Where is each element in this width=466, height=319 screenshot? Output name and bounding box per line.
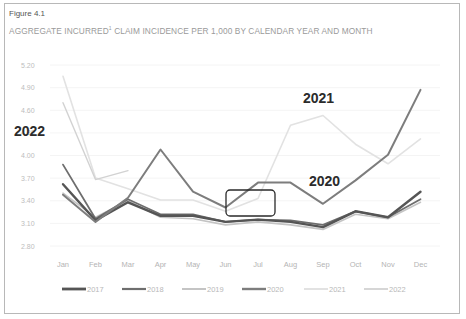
series-lines: [63, 76, 421, 229]
x-tick-label: Oct: [350, 260, 363, 269]
x-tick-label: Sep: [316, 260, 329, 269]
highlight-box: [226, 190, 275, 216]
y-tick-label: 3.40: [21, 197, 35, 204]
x-tick-label: Mar: [122, 260, 135, 269]
legend-item-2018: 2018: [122, 285, 164, 294]
series-line-2022: [63, 103, 128, 180]
x-tick-label: Dec: [414, 260, 428, 269]
legend: 201720182019202020212022: [62, 285, 406, 294]
legend-label: 2017: [87, 285, 104, 294]
x-tick-label: Jan: [57, 260, 69, 269]
series-line-2019: [63, 193, 421, 229]
y-tick-label: 4.90: [21, 84, 35, 91]
legend-item-2019: 2019: [182, 285, 224, 294]
legend-label: 2019: [207, 285, 224, 294]
x-tick-label: Aug: [284, 260, 297, 269]
legend-label: 2022: [389, 285, 406, 294]
y-tick-label: 4.00: [21, 152, 35, 159]
line-chart: 5.204.904.604.304.003.703.403.102.80 Jan…: [0, 0, 466, 319]
y-tick-label: 5.20: [21, 62, 35, 69]
x-tick-label: Jul: [253, 260, 263, 269]
legend-item-2020: 2020: [242, 285, 284, 294]
legend-label: 2021: [329, 285, 346, 294]
legend-item-2017: 2017: [62, 285, 104, 294]
x-axis: JanFebMarAprMayJunJulAugSepOctNovDec: [57, 260, 427, 269]
x-tick-label: Apr: [155, 260, 167, 269]
annotation-2021: 2021: [303, 90, 334, 106]
x-tick-label: May: [186, 260, 200, 269]
annotation-2022: 2022: [14, 123, 45, 139]
legend-label: 2020: [267, 285, 284, 294]
x-tick-label: Jun: [219, 260, 231, 269]
gridlines: [50, 65, 440, 246]
legend-item-2021: 2021: [304, 285, 346, 294]
legend-label: 2018: [147, 285, 164, 294]
y-tick-label: 3.10: [21, 220, 35, 227]
legend-item-2022: 2022: [364, 285, 406, 294]
y-axis: 5.204.904.604.304.003.703.403.102.80: [21, 62, 35, 250]
series-line-2021: [63, 76, 421, 211]
x-tick-label: Nov: [381, 260, 395, 269]
y-tick-label: 2.80: [21, 243, 35, 250]
year-annotations: 202220212020: [14, 90, 340, 189]
annotation-2020: 2020: [309, 173, 340, 189]
y-tick-label: 4.60: [21, 107, 35, 114]
x-tick-label: Feb: [89, 260, 102, 269]
y-tick-label: 3.70: [21, 175, 35, 182]
